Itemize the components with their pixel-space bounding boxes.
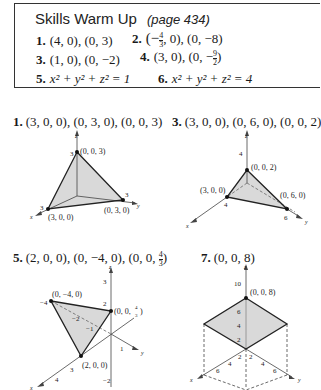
svg-text:4: 4 — [55, 376, 59, 384]
svg-text:−4: −4 — [40, 299, 48, 307]
svg-text:3: 3 — [103, 278, 107, 286]
svg-text:x: x — [185, 223, 189, 229]
svg-text:3: 3 — [70, 366, 74, 374]
svg-text:y: y — [140, 350, 144, 356]
svg-text:y: y — [304, 219, 308, 225]
svg-text:4: 4 — [228, 360, 232, 368]
svg-text:−2: −2 — [103, 377, 111, 385]
warmup-item-2: 2.(−43, 0), (0, −8) — [132, 30, 223, 49]
exercise-3-graph: z y x 4 6 4 (0, 0, 2) (0, 6, 0) (3, 0, 0… — [160, 128, 317, 240]
svg-text:3: 3 — [40, 204, 44, 212]
svg-text:(0, 0,: (0, 0, — [114, 307, 131, 316]
svg-text:3: 3 — [70, 150, 74, 158]
svg-text:(0, 0, 8): (0, 0, 8) — [250, 288, 276, 297]
svg-text:y: y — [297, 377, 301, 383]
warmup-title: Skills Warm Up(page 434) — [35, 10, 210, 27]
warmup-item-5: 5.x² + y² + z² = 1 — [36, 71, 130, 87]
svg-text:6: 6 — [284, 214, 288, 222]
svg-text:(3, 0, 0): (3, 0, 0) — [200, 186, 226, 195]
svg-text:2: 2 — [238, 353, 242, 361]
svg-text:4: 4 — [237, 322, 241, 330]
svg-text:(0, 0, 3): (0, 0, 3) — [80, 147, 106, 156]
svg-text:(0, −4, 0): (0, −4, 0) — [52, 290, 82, 299]
svg-text:(2, 0, 0): (2, 0, 0) — [82, 361, 108, 370]
svg-text:2: 2 — [249, 353, 253, 361]
warmup-item-3: 3.(1, 0), (0, −2) — [36, 52, 120, 68]
svg-text:4: 4 — [239, 150, 243, 158]
svg-text:−2: −2 — [72, 315, 80, 323]
svg-text:(3, 0, 0): (3, 0, 0) — [48, 213, 74, 222]
svg-text:−1: −1 — [86, 325, 94, 333]
svg-text:(0, 6, 0): (0, 6, 0) — [280, 191, 306, 200]
exercise-1-graph: z y x 3 3 3 (0, 0, 3) (0, 3, 0) (3, 0, 0… — [0, 128, 160, 240]
exercise-5-graph: z y x 3 2 −2 −4 −2 −1 1 3 4 (0, −4, 0) (… — [0, 262, 160, 390]
svg-text:6: 6 — [237, 308, 241, 316]
svg-text:6: 6 — [273, 367, 277, 375]
svg-text:(0, 3, 0): (0, 3, 0) — [104, 206, 130, 215]
svg-text:(0, 0, 2): (0, 0, 2) — [251, 163, 277, 172]
svg-text:x: x — [29, 385, 33, 390]
svg-text:10: 10 — [234, 280, 242, 288]
warmup-item-4: 4.(3, 0), (0, −92) — [140, 49, 221, 67]
svg-text:2: 2 — [237, 336, 241, 344]
exercise-7-graph: z y x 10 6 4 2 2 4 6 2 4 6 (0, 0, 8) — [150, 262, 317, 390]
svg-text:x: x — [189, 377, 193, 383]
warmup-item-6: 6.x² + y² + z² = 4 — [158, 71, 252, 87]
skills-warm-up-box: Skills Warm Up(page 434) 1.(4, 0), (0, 3… — [14, 3, 320, 88]
warmup-item-1: 1.(4, 0), (0, 3) — [36, 33, 113, 49]
svg-text:4: 4 — [261, 360, 265, 368]
svg-text:): ) — [140, 307, 143, 316]
svg-text:3: 3 — [125, 191, 129, 199]
svg-text:4: 4 — [224, 201, 228, 209]
svg-text:2: 2 — [103, 300, 107, 308]
svg-text:1: 1 — [120, 345, 124, 353]
svg-text:x: x — [29, 214, 33, 220]
svg-text:6: 6 — [216, 367, 220, 375]
warmup-page-ref: (page 434) — [147, 12, 210, 27]
svg-text:y: y — [136, 203, 140, 209]
svg-text:3: 3 — [135, 313, 138, 318]
warmup-heading: Skills Warm Up — [35, 10, 137, 27]
svg-text:4: 4 — [135, 305, 138, 310]
